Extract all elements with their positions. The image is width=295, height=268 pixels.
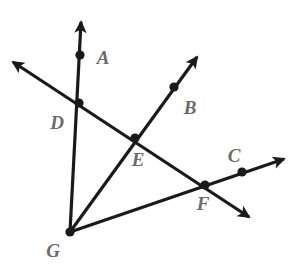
figure-canvas (0, 0, 295, 268)
point-dot-D (74, 98, 83, 107)
point-label-F: F (197, 194, 210, 213)
point-dot-G (65, 227, 74, 236)
point-label-D: D (50, 113, 64, 132)
point-label-G: G (46, 241, 60, 260)
geometry-figure: A B C D E F G (0, 0, 295, 268)
point-label-A: A (97, 48, 110, 67)
point-label-C: C (228, 146, 241, 165)
point-dot-C (237, 167, 246, 176)
ray-g-through-e-b (70, 57, 197, 232)
point-label-B: B (184, 98, 197, 117)
point-label-E: E (132, 150, 145, 169)
point-dot-A (75, 50, 84, 59)
point-dot-F (200, 180, 209, 189)
point-dot-B (169, 82, 178, 91)
point-dot-E (130, 133, 139, 142)
